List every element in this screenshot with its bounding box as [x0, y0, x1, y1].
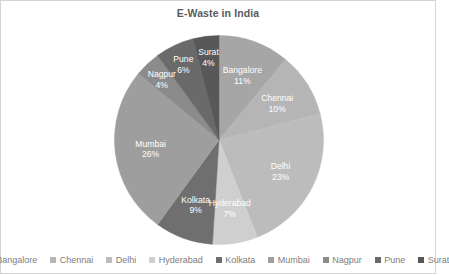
legend-swatch-icon: [216, 257, 222, 263]
legend-swatch-icon: [268, 257, 274, 263]
legend-item-label: Bangalore: [0, 255, 37, 265]
legend-item-label: Nagpur: [332, 255, 362, 265]
legend-item-label: Pune: [384, 255, 405, 265]
legend-item-label: Hyderabad: [159, 255, 203, 265]
legend-item-label: Surat: [428, 255, 449, 265]
legend-swatch-icon: [106, 257, 112, 263]
chart-legend: BangaloreChennaiDelhiHyderabadKolkataMum…: [1, 255, 435, 265]
legend-swatch-icon: [323, 257, 329, 263]
legend-item-mumbai[interactable]: Mumbai: [268, 255, 310, 265]
legend-item-label: Delhi: [116, 255, 137, 265]
legend-swatch-icon: [50, 257, 56, 263]
legend-item-label: Mumbai: [278, 255, 310, 265]
legend-swatch-icon: [418, 257, 424, 263]
legend-swatch-icon: [149, 257, 155, 263]
chart-container: E-Waste in India Bangalore11%Chennai10%D…: [0, 0, 436, 274]
legend-item-surat[interactable]: Surat: [418, 255, 449, 265]
legend-item-label: Kolkata: [225, 255, 255, 265]
pie-svg: [114, 35, 324, 245]
legend-item-label: Chennai: [60, 255, 94, 265]
legend-item-delhi[interactable]: Delhi: [106, 255, 136, 265]
chart-title: E-Waste in India: [1, 7, 435, 19]
legend-swatch-icon: [375, 257, 381, 263]
legend-item-hyderabad[interactable]: Hyderabad: [149, 255, 203, 265]
pie-chart: Bangalore11%Chennai10%Delhi23%Hyderabad7…: [114, 35, 324, 245]
legend-item-chennai[interactable]: Chennai: [50, 255, 93, 265]
legend-item-pune[interactable]: Pune: [375, 255, 406, 265]
legend-item-bangalore[interactable]: Bangalore: [0, 255, 37, 265]
legend-item-nagpur[interactable]: Nagpur: [323, 255, 362, 265]
legend-item-kolkata[interactable]: Kolkata: [216, 255, 256, 265]
